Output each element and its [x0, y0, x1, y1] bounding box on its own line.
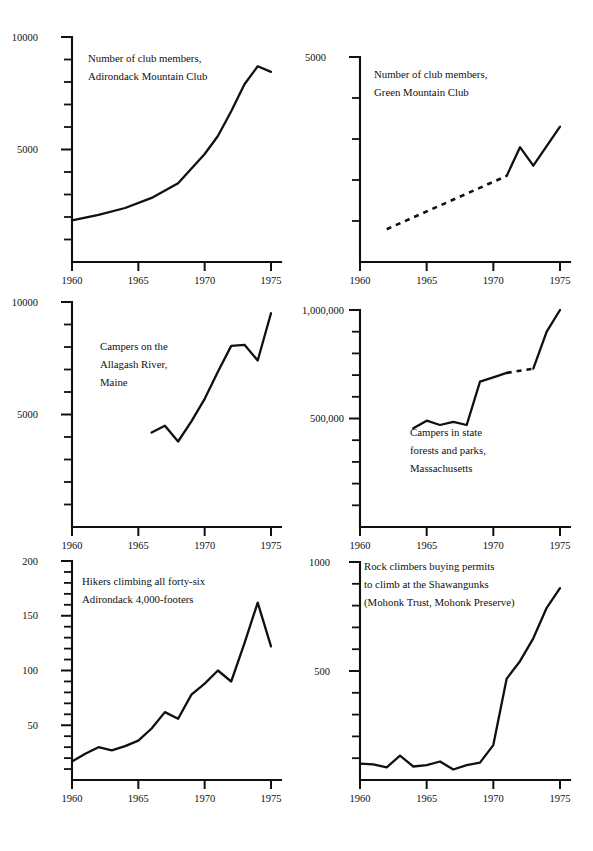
x-tick-label: 1975: [261, 540, 282, 551]
chart-annotation-line: Green Mountain Club: [374, 86, 469, 98]
chart-annotation-line: Campers in state: [410, 426, 482, 438]
chart-annotation-line: Hikers climbing all forty-six: [82, 575, 206, 587]
x-tick-label: 1965: [128, 793, 149, 804]
x-tick-label: 1960: [62, 275, 83, 286]
y-tick-label: 5000: [17, 409, 38, 420]
y-tick-label: 5000: [305, 52, 326, 63]
y-tick-label: 150: [22, 610, 38, 621]
y-tick-label: 200: [22, 556, 38, 567]
figure-grid: 1000050001960196519701975Number of club …: [0, 0, 593, 851]
x-tick-label: 1965: [416, 275, 437, 286]
x-tick-label: 1965: [128, 540, 149, 551]
x-tick-label: 1960: [62, 540, 83, 551]
x-tick-label: 1965: [416, 793, 437, 804]
x-tick-label: 1970: [194, 275, 215, 286]
chart-annotation-line: Maine: [100, 376, 128, 388]
y-tick-label: 100: [22, 665, 38, 676]
chart-annotation: Hikers climbing all forty-sixAdirondack …: [82, 575, 206, 605]
chart-annotation-line: (Mohonk Trust, Mohonk Preserve): [364, 596, 515, 609]
x-tick-label: 1970: [483, 540, 504, 551]
chart-annotation-line: Adirondack 4,000-footers: [82, 593, 194, 605]
chart-annotation-line: Allagash River,: [100, 358, 168, 370]
chart-annotation: Number of club members,Adirondack Mounta…: [88, 52, 207, 82]
x-tick-label: 1960: [62, 793, 83, 804]
x-tick-label: 1975: [550, 793, 571, 804]
x-tick-label: 1970: [194, 540, 215, 551]
x-tick-label: 1965: [128, 275, 149, 286]
y-tick-label: 1,000,000: [302, 305, 344, 316]
x-tick-label: 1970: [194, 793, 215, 804]
x-tick-label: 1960: [350, 540, 371, 551]
chart-annotation-line: Number of club members,: [88, 52, 202, 64]
x-tick-label: 1960: [350, 275, 371, 286]
x-tick-label: 1965: [416, 540, 437, 551]
y-tick-label: 500,000: [310, 413, 344, 424]
chart-annotation-line: Rock climbers buying permits: [364, 560, 494, 572]
y-tick-label: 10000: [12, 32, 38, 43]
x-tick-label: 1975: [261, 275, 282, 286]
chart-annotation-line: forests and parks,: [410, 444, 486, 456]
x-tick-label: 1970: [483, 275, 504, 286]
chart-annotation-line: Campers on the: [100, 340, 168, 352]
chart-panel-shawangunks-climbing-permits: 10005001960196519701975Rock climbers buy…: [297, 555, 593, 851]
chart-panel-allagash-river-campers: 1000050001960196519701975Campers on theA…: [0, 290, 297, 555]
chart-annotation-line: to climb at the Shawangunks: [364, 578, 489, 590]
chart-annotation: Number of club members,Green Mountain Cl…: [374, 68, 488, 98]
y-tick-label: 50: [28, 720, 39, 731]
chart-annotation-line: Massachusetts: [410, 462, 472, 474]
x-tick-label: 1960: [350, 793, 371, 804]
chart-annotation-line: Number of club members,: [374, 68, 488, 80]
x-tick-label: 1975: [550, 275, 571, 286]
chart-annotation-line: Adirondack Mountain Club: [88, 70, 207, 82]
y-tick-label: 5000: [17, 144, 38, 155]
x-tick-label: 1975: [550, 540, 571, 551]
x-tick-label: 1970: [483, 793, 504, 804]
chart-panel-massachusetts-state-campers: 1,000,000500,0001960196519701975Campers …: [297, 290, 593, 555]
chart-panel-adirondack-mountain-club: 1000050001960196519701975Number of club …: [0, 0, 297, 290]
y-tick-label: 1000: [309, 557, 330, 568]
x-tick-label: 1975: [261, 793, 282, 804]
chart-panel-green-mountain-club: 50001960196519701975Number of club membe…: [297, 0, 593, 290]
chart-annotation: Campers on theAllagash River,Maine: [100, 340, 168, 388]
chart-annotation: Campers in stateforests and parks,Massac…: [410, 426, 486, 474]
y-tick-label: 10000: [12, 297, 38, 308]
y-tick-label: 500: [314, 666, 330, 677]
chart-annotation: Rock climbers buying permitsto climb at …: [364, 560, 515, 609]
chart-panel-adirondack-46ers: 200150100501960196519701975Hikers climbi…: [0, 555, 297, 851]
